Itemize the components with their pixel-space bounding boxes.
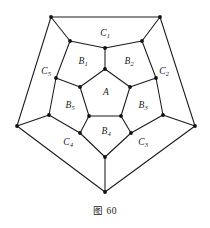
graph-edge <box>80 69 105 87</box>
graph-edge <box>17 115 49 126</box>
graph-vertex <box>103 155 107 159</box>
graph-edge <box>121 116 131 133</box>
vertex-group <box>15 15 197 194</box>
graph-vertex <box>103 190 107 194</box>
graph-edge <box>130 78 156 87</box>
face-label-c1: C1 <box>100 29 110 39</box>
face-label-subscript: 1 <box>85 60 88 67</box>
face-label-subscript: 4 <box>70 141 73 148</box>
graph-edge <box>17 126 105 192</box>
graph-edge <box>56 78 80 87</box>
graph-vertex <box>68 39 72 43</box>
face-label-c3: C3 <box>138 138 148 148</box>
face-label-letter: B <box>138 100 144 110</box>
face-label-c4: C4 <box>63 138 73 148</box>
graph-vertex <box>128 85 132 89</box>
face-label-letter: C <box>63 137 69 147</box>
graph-edge <box>105 41 142 48</box>
graph-vertex <box>87 114 91 118</box>
face-label-letter: A <box>103 87 109 97</box>
graph-edge <box>49 78 56 115</box>
face-label-subscript: 2 <box>166 70 169 77</box>
face-label-b5: B5 <box>65 101 74 111</box>
graph-edge <box>142 41 156 78</box>
graph-vertex <box>140 39 144 43</box>
face-label-subscript: 3 <box>145 104 148 111</box>
graph-edge <box>156 78 163 115</box>
graph-edge <box>131 115 163 133</box>
face-label-subscript: 5 <box>72 104 75 111</box>
graph-edge <box>121 87 130 116</box>
graph-edge <box>105 69 130 87</box>
graph-vertex <box>47 113 51 117</box>
face-label-subscript: 3 <box>145 141 148 148</box>
graph-edge <box>70 41 105 48</box>
graph-edge <box>142 17 160 41</box>
face-label-letter: C <box>138 137 144 147</box>
graph-vertex <box>103 67 107 71</box>
face-label-b4: B4 <box>101 127 110 137</box>
graph-vertex <box>129 131 133 135</box>
face-label-subscript: 1 <box>107 32 110 39</box>
face-label-letter: B <box>124 56 130 66</box>
graph-edge <box>105 126 195 192</box>
graph-vertex <box>78 131 82 135</box>
face-label-subscript: 4 <box>108 130 111 137</box>
edge-group <box>17 17 195 192</box>
graph-vertex <box>49 15 53 19</box>
graph-edge <box>56 41 70 78</box>
graph-vertex <box>54 76 58 80</box>
face-label-b1: B1 <box>78 57 87 67</box>
face-label-subscript: 5 <box>48 70 51 77</box>
graph-vertex <box>78 85 82 89</box>
face-label-subscript: 2 <box>131 60 134 67</box>
graph-vertex <box>154 76 158 80</box>
graph-edge <box>49 115 80 133</box>
face-label-b3: B3 <box>138 101 147 111</box>
face-label-c2: C2 <box>159 67 169 77</box>
face-label-letter: C <box>100 28 106 38</box>
graph-vertex <box>15 124 19 128</box>
figure-container: C1C2C3C4C5B1B2B3B4B5A 图 60 <box>0 0 210 228</box>
face-label-letter: B <box>65 100 71 110</box>
face-label-letter: B <box>78 56 84 66</box>
graph-edge <box>80 87 89 116</box>
graph-edge <box>163 115 195 126</box>
graph-vertex <box>193 124 197 128</box>
graph-edge <box>51 17 70 41</box>
graph-vertex <box>161 113 165 117</box>
face-label-b2: B2 <box>124 57 133 67</box>
face-label-a: A <box>103 88 109 98</box>
face-label-c5: C5 <box>41 67 51 77</box>
face-label-letter: C <box>159 66 165 76</box>
face-label-letter: B <box>101 126 107 136</box>
graph-edge <box>80 116 89 133</box>
graph-vertex <box>103 46 107 50</box>
figure-caption: 图 60 <box>0 203 210 217</box>
graph-vertex <box>119 114 123 118</box>
graph-vertex <box>158 15 162 19</box>
face-label-letter: C <box>41 66 47 76</box>
